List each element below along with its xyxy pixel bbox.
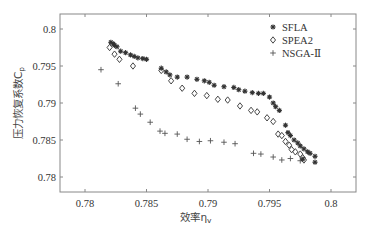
- data-point: [167, 72, 172, 77]
- series-nsga-: [98, 67, 303, 164]
- data-point: [300, 157, 305, 162]
- data-point: [251, 151, 257, 157]
- data-point: [267, 94, 272, 99]
- x-tick-label: 0.8: [324, 198, 337, 209]
- data-point: [147, 119, 153, 125]
- data-point: [271, 118, 276, 124]
- legend-label: NSGA-Ⅱ: [282, 48, 321, 59]
- data-point: [144, 57, 149, 62]
- data-point: [236, 87, 241, 92]
- data-point: [175, 75, 180, 80]
- data-point: [215, 96, 220, 102]
- data-point: [261, 91, 266, 96]
- series-spea2: [107, 44, 306, 163]
- legend-marker: [270, 50, 276, 56]
- data-point: [248, 107, 253, 113]
- y-tick-label: 0.8: [43, 24, 56, 35]
- data-point: [225, 97, 230, 103]
- data-point: [98, 67, 104, 73]
- legend-item: NSGA-Ⅱ: [270, 48, 321, 59]
- data-point: [192, 90, 197, 96]
- legend-marker: [270, 24, 275, 29]
- data-point: [283, 123, 288, 128]
- data-point: [207, 80, 212, 85]
- y-tick-label: 0.79: [38, 98, 56, 109]
- legend-item: SFLA: [270, 22, 308, 33]
- data-point: [312, 160, 317, 165]
- data-point: [221, 139, 227, 145]
- data-point: [208, 138, 214, 144]
- data-point: [117, 56, 122, 62]
- data-point: [159, 66, 164, 71]
- data-point: [157, 128, 163, 134]
- data-point: [212, 83, 217, 88]
- data-point: [250, 90, 255, 95]
- data-point: [115, 81, 121, 87]
- data-point: [264, 115, 269, 121]
- data-point: [140, 56, 145, 61]
- data-point: [288, 156, 294, 162]
- data-point: [169, 78, 174, 84]
- data-point: [123, 50, 128, 55]
- data-point: [256, 91, 261, 96]
- legend-label: SPEA2: [282, 35, 313, 46]
- data-point: [221, 84, 226, 89]
- data-point: [270, 154, 276, 160]
- data-point: [174, 131, 180, 137]
- data-point: [288, 133, 293, 138]
- data-point: [279, 157, 285, 163]
- x-tick-label: 0.785: [135, 198, 159, 209]
- data-point: [202, 78, 207, 83]
- data-point: [273, 104, 278, 109]
- data-point: [114, 44, 119, 49]
- data-point: [162, 131, 168, 137]
- data-point: [135, 55, 140, 60]
- y-axis-label-main: 压力恢复系数C: [12, 72, 24, 139]
- legend-marker: [270, 37, 275, 43]
- x-tick-label: 0.79: [199, 198, 217, 209]
- y-tick-label: 0.78: [38, 172, 56, 183]
- x-tick-label: 0.795: [258, 198, 282, 209]
- data-point: [197, 139, 203, 145]
- data-point: [237, 103, 242, 109]
- data-point: [118, 49, 123, 54]
- data-point: [138, 111, 144, 117]
- x-tick-label: 0.78: [76, 198, 94, 209]
- data-point: [133, 105, 139, 111]
- data-point: [307, 151, 312, 156]
- data-point: [232, 141, 238, 147]
- x-axis-label: 效率ηv: [180, 211, 212, 225]
- scatter-chart: 0.780.7850.790.7950.8 0.780.7850.790.795…: [0, 0, 374, 235]
- y-tick-label: 0.785: [32, 135, 56, 146]
- legend-item: SPEA2: [270, 35, 312, 46]
- data-point: [180, 85, 185, 91]
- y-axis-label: 压力恢复系数Cp: [12, 67, 26, 139]
- data-point: [242, 89, 247, 94]
- x-axis-label-main: 效率η: [180, 211, 207, 223]
- data-point: [184, 75, 189, 80]
- data-point: [255, 109, 260, 115]
- data-point: [271, 100, 276, 105]
- data-point: [312, 154, 317, 159]
- data-point: [112, 51, 117, 57]
- legend-label: SFLA: [282, 22, 308, 33]
- data-point: [184, 136, 190, 142]
- data-point: [277, 108, 282, 113]
- y-tick-label: 0.795: [32, 61, 56, 72]
- data-point: [130, 63, 135, 69]
- legend: SFLASPEA2NSGA-Ⅱ: [270, 22, 321, 59]
- x-axis-label-sub: v: [207, 216, 212, 225]
- data-point: [258, 151, 264, 157]
- data-point: [231, 85, 236, 90]
- data-point: [194, 77, 199, 82]
- y-axis-label-sub: p: [17, 67, 26, 72]
- data-point: [204, 92, 209, 98]
